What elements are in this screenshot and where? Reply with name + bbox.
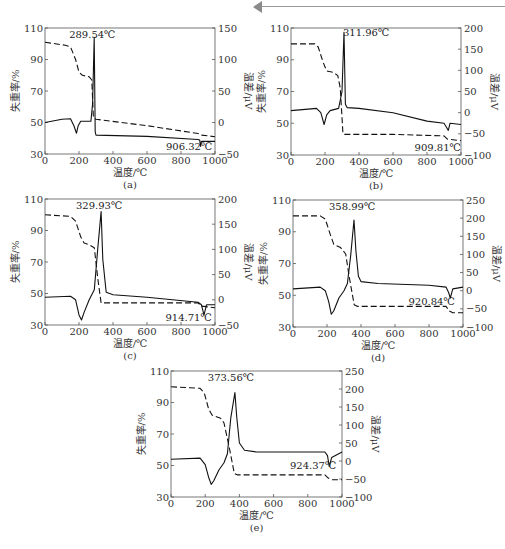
- peak-annotation: 920.84℃: [408, 296, 454, 307]
- peak-annotation: 289.54℃: [69, 29, 115, 40]
- y-right-tick-label: 50: [466, 267, 479, 278]
- y-right-tick-label: 150: [345, 402, 364, 413]
- y-left-tick-label: 110: [24, 23, 43, 34]
- y-left-tick-label: 90: [30, 54, 43, 65]
- y-left-tick-label: 70: [30, 86, 43, 97]
- dta-curve-solid: [45, 37, 215, 146]
- y-right-tick-label: 0: [345, 456, 351, 467]
- y-right-axis-label: 温差/μV: [370, 415, 382, 453]
- y-right-tick-label: 0: [218, 294, 224, 305]
- dta-curve-solid: [291, 32, 461, 130]
- x-axis-label: 温度/℃: [113, 166, 148, 178]
- y-left-tick-label: 110: [24, 194, 43, 205]
- y-left-tick-label: 30: [276, 150, 289, 161]
- y-left-tick-label: 50: [30, 117, 43, 128]
- panel-caption: (a): [123, 179, 137, 190]
- y-left-tick-label: 110: [270, 23, 289, 34]
- y-right-tick-label: 250: [466, 195, 485, 206]
- y-right-tick-label: −50: [466, 303, 487, 314]
- y-left-tick-label: 110: [272, 195, 291, 206]
- x-tick-label: 200: [69, 326, 88, 337]
- y-left-tick-label: 70: [30, 257, 43, 268]
- chart-panel-a: 0200400600800100030507090110−50050100150…: [9, 23, 255, 191]
- x-tick-label: 600: [383, 156, 402, 167]
- y-right-tick-label: 150: [466, 231, 485, 242]
- y-left-tick-label: 50: [156, 460, 169, 471]
- x-tick-label: 200: [69, 155, 88, 166]
- y-right-tick-label: 150: [464, 44, 483, 55]
- peak-annotation: 311.96℃: [343, 27, 389, 38]
- y-right-tick-label: 50: [464, 86, 477, 97]
- x-tick-label: 200: [196, 498, 215, 509]
- peak-annotation: 906.32℃: [166, 141, 212, 152]
- panel-caption: (b): [369, 180, 383, 191]
- y-right-tick-label: −100: [464, 150, 491, 161]
- y-left-tick-label: 70: [156, 429, 169, 440]
- x-tick-label: 800: [171, 155, 190, 166]
- y-right-tick-label: 200: [464, 23, 483, 34]
- x-axis-label: 温度/℃: [113, 337, 148, 349]
- y-left-tick-label: 50: [278, 290, 291, 301]
- y-right-tick-label: 250: [345, 366, 364, 377]
- tg-curve-dashed: [291, 44, 461, 141]
- y-right-tick-label: 0: [466, 285, 472, 296]
- y-right-tick-label: −100: [466, 322, 493, 333]
- y-left-axis-label: 失重率/%: [255, 70, 267, 113]
- peak-annotation: 358.99℃: [329, 201, 375, 212]
- peak-annotation: 924.37℃: [290, 460, 336, 471]
- y-right-tick-label: 150: [218, 219, 237, 230]
- y-right-tick-label: −50: [218, 149, 239, 160]
- x-tick-label: 400: [103, 155, 122, 166]
- x-tick-label: 800: [298, 498, 317, 509]
- x-axis-label: 温度/℃: [361, 339, 396, 351]
- peak-annotation: 373.56℃: [208, 372, 254, 383]
- y-left-tick-label: 50: [30, 288, 43, 299]
- y-right-axis-label: 温差/μV: [491, 245, 503, 283]
- panel-caption: (e): [250, 522, 264, 533]
- x-tick-label: 400: [349, 156, 368, 167]
- y-right-tick-label: 200: [466, 213, 485, 224]
- tg-curve-dashed: [45, 215, 215, 308]
- y-left-tick-label: 70: [276, 86, 289, 97]
- x-tick-label: 800: [417, 156, 436, 167]
- y-left-axis-label: 失重率/%: [9, 70, 21, 113]
- y-right-tick-label: 200: [345, 384, 364, 395]
- y-right-tick-label: 100: [466, 249, 485, 260]
- y-right-tick-label: 100: [218, 244, 237, 255]
- plot-frame: [45, 199, 215, 325]
- y-right-tick-label: 150: [218, 23, 237, 34]
- y-right-tick-label: 50: [218, 269, 231, 280]
- y-left-axis-label: 失重率/%: [257, 242, 269, 285]
- y-left-axis-label: 失重率/%: [9, 241, 21, 284]
- x-tick-label: 600: [385, 328, 404, 339]
- x-tick-label: 400: [351, 328, 370, 339]
- x-axis-label: 温度/℃: [359, 167, 394, 179]
- y-left-tick-label: 70: [278, 258, 291, 269]
- y-right-axis-label: 温差/μV: [489, 73, 501, 111]
- peak-annotation: 909.81℃: [415, 142, 461, 153]
- y-right-axis-label: 温差/μV: [243, 243, 255, 281]
- chart-panel-b: 0200400600800100030507090110−100−5005010…: [255, 23, 501, 192]
- y-right-tick-label: −50: [218, 320, 239, 331]
- x-tick-label: 200: [315, 156, 334, 167]
- plot-frame: [45, 28, 215, 154]
- y-right-tick-label: 200: [218, 194, 237, 205]
- y-left-tick-label: 30: [278, 322, 291, 333]
- x-tick-label: 600: [137, 326, 156, 337]
- y-left-tick-label: 90: [156, 397, 169, 408]
- y-left-axis-label: 失重率/%: [135, 413, 147, 456]
- x-axis-label: 温度/℃: [239, 509, 274, 521]
- x-tick-label: 400: [103, 326, 122, 337]
- y-left-tick-label: 90: [276, 54, 289, 65]
- y-right-tick-label: −50: [345, 474, 366, 485]
- y-right-tick-label: −50: [464, 128, 485, 139]
- y-right-tick-label: 0: [218, 117, 224, 128]
- y-right-tick-label: 50: [345, 438, 358, 449]
- panel-caption: (c): [123, 350, 137, 361]
- y-right-tick-label: 0: [464, 107, 470, 118]
- x-tick-label: 600: [264, 498, 283, 509]
- x-tick-label: 600: [137, 155, 156, 166]
- x-tick-label: 800: [171, 326, 190, 337]
- plot-frame: [293, 200, 463, 327]
- plot-frame: [171, 371, 342, 497]
